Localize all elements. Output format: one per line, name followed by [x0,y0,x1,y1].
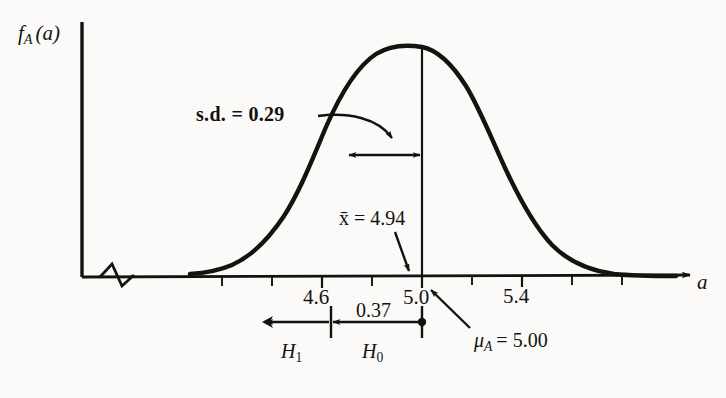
hypothesis-interval [262,306,426,338]
y-axis-label: fA(a) [18,23,60,46]
xbar-leader-arrow [395,232,409,271]
mu-leader-arrow [431,290,470,328]
x-tick-label-5-0: 5.0 [403,287,429,308]
interval-label: 0.37 [356,300,391,320]
x-tick-label-4-6: 4.6 [303,287,329,308]
mu-annotation-value: = 5.00 [496,329,547,351]
x-tick-label-5-4: 5.4 [503,286,529,307]
axis-break-icon [100,264,134,286]
h0-region-label: H0 [362,341,383,364]
y-axis-label-subscript: A [24,31,33,47]
x-axis-label: a [697,272,708,293]
h1-region-label: H1 [281,341,302,364]
mu-annotation-subscript: A [484,339,492,354]
xbar-annotation-label: x̄ = 4.94 [339,208,405,228]
sd-annotation-label: s.d. = 0.29 [196,104,285,124]
h0-label-subscript: 0 [376,350,383,365]
h0-label-base: H [362,340,376,362]
x-axis [82,275,690,277]
figure-canvas: fA(a) a 4.6 5.0 5.4 s.d. = 0.29 x̄ = 4.9… [0,0,726,398]
mu-annotation-base: μ [474,329,484,351]
y-axis-label-arg: (a) [36,21,61,45]
mu-annotation-label: μA= 5.00 [474,330,548,353]
h1-label-subscript: 1 [295,350,302,365]
normal-distribution-curve [190,46,676,276]
h1-label-base: H [281,340,295,362]
chart-svg [0,0,726,398]
